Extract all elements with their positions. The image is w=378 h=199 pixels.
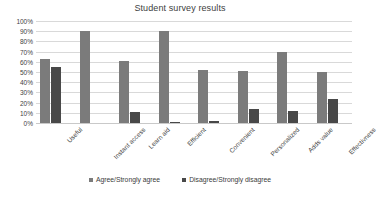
bar-group xyxy=(234,21,274,123)
y-axis-tick-label: 50% xyxy=(0,69,33,76)
y-axis-tick-label: 90% xyxy=(0,28,33,35)
legend-item[interactable]: Agree/Strongly agree xyxy=(89,175,160,184)
chart-legend: Agree/Strongly agreeDisagree/Strongly di… xyxy=(0,175,360,184)
legend-label: Agree/Strongly agree xyxy=(96,175,160,184)
bar[interactable] xyxy=(198,70,208,123)
bar[interactable] xyxy=(159,31,169,123)
legend-item[interactable]: Disagree/Strongly disagree xyxy=(182,175,271,184)
bar[interactable] xyxy=(317,72,327,123)
bar[interactable] xyxy=(249,109,259,123)
y-axis-tick-label: 20% xyxy=(0,99,33,106)
x-axis-tick-label: Adds value xyxy=(307,126,335,154)
x-axis-tick-label: Efficient xyxy=(186,126,208,148)
bar-group xyxy=(273,21,313,123)
x-axis-tick-label: Personalized xyxy=(269,126,301,158)
y-axis-tick-label: 80% xyxy=(0,38,33,45)
x-axis: UsefulInstant accessLearn aidEfficientCo… xyxy=(36,124,352,170)
x-axis-tick-label: Convenient xyxy=(228,126,257,155)
bar[interactable] xyxy=(40,59,50,123)
chart-title: Student survey results xyxy=(0,3,360,13)
x-axis-tick-label: Effectivness xyxy=(347,126,377,156)
plot-area xyxy=(36,21,352,123)
bar[interactable] xyxy=(170,122,180,123)
bar[interactable] xyxy=(80,31,90,123)
y-axis-tick-label: 60% xyxy=(0,58,33,65)
bar-group xyxy=(313,21,353,123)
legend-swatch-icon xyxy=(182,178,186,182)
bar[interactable] xyxy=(328,99,338,123)
y-axis-tick-label: 30% xyxy=(0,89,33,96)
bar[interactable] xyxy=(288,111,298,123)
bar-group xyxy=(155,21,195,123)
bar[interactable] xyxy=(238,71,248,123)
bars-layer xyxy=(36,21,352,123)
x-axis-tick-label: Useful xyxy=(66,126,85,145)
legend-swatch-icon xyxy=(89,178,93,182)
bar[interactable] xyxy=(130,112,140,123)
bar-group xyxy=(36,21,76,123)
bar-group xyxy=(115,21,155,123)
x-axis-tick-label: Instant access xyxy=(112,126,147,161)
y-axis-tick-label: 10% xyxy=(0,109,33,116)
y-axis-tick-label: 70% xyxy=(0,48,33,55)
y-axis-tick-label: 100% xyxy=(0,18,33,25)
y-axis-tick-label: 40% xyxy=(0,79,33,86)
bar[interactable] xyxy=(119,61,129,123)
bar-group xyxy=(194,21,234,123)
bar[interactable] xyxy=(209,121,219,123)
y-axis: 100%90%80%70%60%50%40%30%20%10%0% xyxy=(0,21,33,123)
x-axis-tick-label: Learn aid xyxy=(147,126,172,151)
y-axis-tick-label: 0% xyxy=(0,120,33,127)
bar[interactable] xyxy=(51,67,61,123)
legend-label: Disagree/Strongly disagree xyxy=(189,175,271,184)
bar[interactable] xyxy=(277,52,287,123)
bar-group xyxy=(76,21,116,123)
